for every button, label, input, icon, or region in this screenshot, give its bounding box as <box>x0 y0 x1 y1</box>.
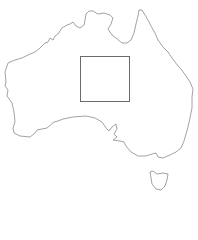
selection-box[interactable] <box>80 56 130 102</box>
tasmania-outline <box>150 171 168 190</box>
